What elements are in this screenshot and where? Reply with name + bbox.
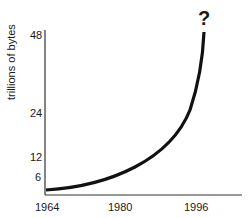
- growth-curve: [46, 32, 204, 190]
- y-tick-12: 12: [30, 152, 42, 163]
- x-tick-1996: 1996: [184, 202, 208, 213]
- x-tick-1964: 1964: [35, 202, 59, 213]
- x-tick-1980: 1980: [108, 202, 132, 213]
- y-tick-48: 48: [30, 30, 42, 41]
- y-tick-6: 6: [35, 172, 41, 183]
- y-tick-24: 24: [30, 108, 42, 119]
- question-mark-annotation: ?: [198, 8, 210, 28]
- y-axis-label: trillions of bytes: [6, 24, 17, 100]
